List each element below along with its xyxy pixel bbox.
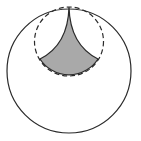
geometry-diagram <box>0 0 141 141</box>
shaded-region <box>40 7 98 75</box>
